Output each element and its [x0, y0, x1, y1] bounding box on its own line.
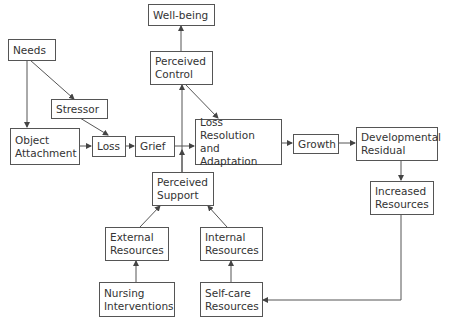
node-external-resources: External Resources — [105, 227, 169, 261]
node-label: Internal Resources — [205, 231, 259, 257]
node-loss-resolution: Loss Resolution and Adaptation — [195, 119, 282, 165]
node-internal-resources: Internal Resources — [200, 227, 263, 261]
node-label: Loss Resolution and Adaptation — [200, 116, 277, 168]
node-label: Self-care Resources — [205, 287, 259, 313]
node-nursing-interventions: Nursing Interventions — [99, 282, 175, 317]
node-label: Perceived Support — [157, 176, 208, 202]
node-label: Growth — [298, 138, 336, 151]
node-developmental-residual: Developmental Residual — [356, 127, 438, 161]
edge-needs-stressor — [30, 60, 74, 99]
node-label: Needs — [13, 44, 46, 57]
node-label: Object Attachment — [15, 134, 77, 160]
node-self-care-resources: Self-care Resources — [200, 282, 263, 317]
node-perceived-control: Perceived Control — [150, 51, 213, 85]
node-well-being: Well-being — [148, 4, 215, 26]
node-needs: Needs — [8, 39, 56, 61]
node-loss: Loss — [92, 136, 126, 157]
node-label: Increased Resources — [375, 185, 429, 211]
edge-external-support — [140, 206, 160, 227]
node-label: Nursing Interventions — [104, 287, 174, 313]
node-label: External Resources — [110, 231, 164, 257]
node-increased-resources: Increased Resources — [370, 181, 434, 215]
node-stressor: Stressor — [51, 99, 108, 119]
node-growth: Growth — [293, 134, 339, 154]
edge-increased-self-care — [263, 214, 401, 300]
node-label: Grief — [140, 140, 166, 153]
edge-control-loss-resolution — [185, 84, 218, 118]
node-label: Developmental Residual — [361, 131, 441, 157]
node-grief: Grief — [135, 136, 175, 157]
node-perceived-support: Perceived Support — [152, 172, 214, 206]
node-object-attachment: Object Attachment — [10, 128, 80, 165]
edge-stressor-loss — [80, 118, 108, 135]
node-label: Well-being — [153, 9, 208, 22]
node-label: Stressor — [56, 103, 99, 116]
flow-diagram: Needs Well-being Perceived Control Stres… — [0, 0, 450, 323]
node-label: Loss — [97, 140, 120, 153]
node-label: Perceived Control — [155, 55, 206, 81]
edge-internal-support — [208, 206, 227, 227]
